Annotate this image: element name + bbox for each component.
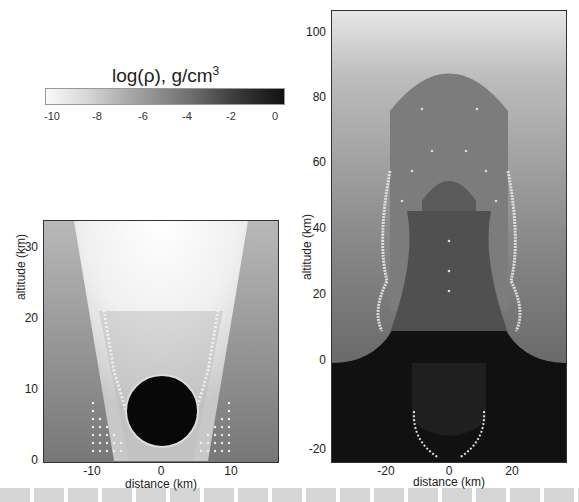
right-y-tick: 0 [300,353,326,367]
right-plot-area [331,10,567,463]
right-y-tick: 80 [300,90,326,104]
colorbar-tick: -8 [92,110,102,122]
colorbar [45,88,285,105]
colorbar-tick: -10 [44,110,60,122]
left-plot-area [43,220,279,463]
right-y-tick: 20 [300,287,326,301]
left-x-tick: 10 [224,464,237,478]
left-y-tick: 10 [12,382,38,396]
right-y-tick: 40 [300,221,326,235]
right-heatmap [332,11,566,462]
left-y-tick: 30 [12,240,38,254]
right-x-axis-label: distance (km) [413,475,485,489]
right-y-tick: 100 [300,25,326,39]
left-x-tick: -10 [83,464,100,478]
truncated-caption [0,488,579,502]
right-x-tick: -20 [377,464,394,478]
left-x-tick: 0 [158,464,165,478]
left-heatmap [44,221,278,462]
left-y-tick: 0 [12,453,38,467]
colorbar-tick: 0 [272,110,278,122]
colorbar-tick: -2 [226,110,236,122]
right-y-tick: -20 [300,442,326,456]
colorbar-tick: -4 [182,110,192,122]
colorbar-tick: -6 [138,110,148,122]
right-y-tick: 60 [300,155,326,169]
right-x-tick: 20 [505,464,518,478]
colorbar-title: log(ρ), g/cm3 [112,64,219,87]
left-y-tick: 20 [12,311,38,325]
